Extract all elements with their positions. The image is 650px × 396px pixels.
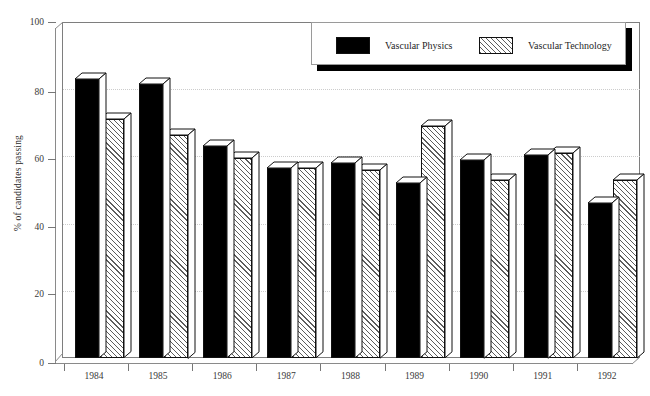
x-tick-label-1990: 1990 bbox=[449, 371, 509, 381]
legend-swatch-solid-icon bbox=[336, 37, 370, 54]
x-tick-mark-1986 bbox=[192, 364, 193, 371]
x-tick-label-1988: 1988 bbox=[320, 371, 380, 381]
bar-3d-overlay bbox=[460, 154, 493, 360]
bar-3d-overlay bbox=[267, 162, 300, 360]
y-tick-mark-60 bbox=[48, 159, 56, 160]
x-tick-mark-1991 bbox=[513, 364, 514, 371]
bar-1990-vascular-physics bbox=[460, 160, 484, 358]
legend-entry-1: Vascular Technology bbox=[479, 35, 612, 55]
y-tick-mark-20 bbox=[48, 294, 56, 295]
x-tick-label-1987: 1987 bbox=[256, 371, 316, 381]
bar-1992-vascular-physics bbox=[588, 203, 612, 358]
plot-corner-bottom bbox=[55, 352, 64, 362]
x-tick-label-1986: 1986 bbox=[192, 371, 252, 381]
bar-chart: % of candidates passing 020406080100 198… bbox=[0, 0, 650, 396]
bar-1991-vascular-physics bbox=[524, 155, 548, 358]
plot-floor-front-edge bbox=[55, 363, 633, 364]
y-tick-label-60: 60 bbox=[18, 154, 44, 164]
y-tick-mark-80 bbox=[48, 92, 56, 93]
x-tick-mark-1992 bbox=[577, 364, 578, 371]
y-tick-label-80: 80 bbox=[18, 87, 44, 97]
bar-3d-overlay bbox=[75, 73, 108, 360]
x-tick-label-1991: 1991 bbox=[513, 371, 573, 381]
y-tick-mark-40 bbox=[48, 227, 56, 228]
plot-left-wall bbox=[55, 28, 63, 364]
x-tick-label-1984: 1984 bbox=[64, 371, 124, 381]
y-tick-mark-100 bbox=[48, 22, 56, 23]
y-axis-tick-labels: 020406080100 bbox=[10, 0, 44, 396]
legend-swatch-hatch-icon bbox=[479, 37, 513, 54]
chart-legend: Vascular Physics Vascular Technology bbox=[311, 22, 626, 65]
x-tick-mark-1985 bbox=[128, 364, 129, 371]
bar-3d-overlay bbox=[331, 157, 364, 360]
y-tick-label-40: 40 bbox=[18, 222, 44, 232]
bar-1989-vascular-physics bbox=[396, 183, 420, 358]
y-tick-mark-0 bbox=[48, 363, 56, 364]
x-tick-mark-1988 bbox=[320, 364, 321, 371]
bar-1984-vascular-physics bbox=[75, 79, 99, 358]
y-tick-label-0: 0 bbox=[18, 358, 44, 368]
x-tick-mark-1989 bbox=[385, 364, 386, 371]
bar-1986-vascular-physics bbox=[203, 146, 227, 358]
bar-1987-vascular-physics bbox=[267, 168, 291, 358]
plot-corner-top bbox=[55, 22, 64, 30]
bar-3d-overlay bbox=[524, 149, 557, 360]
legend-box: Vascular Physics Vascular Technology bbox=[311, 22, 626, 65]
bar-3d-overlay bbox=[139, 78, 172, 360]
legend-entry-0: Vascular Physics bbox=[336, 35, 453, 55]
x-tick-label-1989: 1989 bbox=[385, 371, 445, 381]
bar-3d-overlay bbox=[396, 177, 429, 360]
y-tick-label-20: 20 bbox=[18, 289, 44, 299]
x-tick-mark-1990 bbox=[449, 364, 450, 371]
x-tick-mark-1984 bbox=[64, 364, 65, 371]
legend-label-1: Vascular Technology bbox=[528, 40, 612, 51]
bar-3d-overlay bbox=[588, 197, 621, 360]
bar-1988-vascular-physics bbox=[331, 163, 355, 358]
x-tick-label-1985: 1985 bbox=[128, 371, 188, 381]
bar-3d-overlay bbox=[203, 140, 236, 360]
x-tick-label-1992: 1992 bbox=[577, 371, 637, 381]
x-tick-mark-1987 bbox=[256, 364, 257, 371]
y-tick-label-100: 100 bbox=[18, 17, 44, 27]
bar-1985-vascular-physics bbox=[139, 84, 163, 358]
legend-label-0: Vascular Physics bbox=[385, 40, 453, 51]
